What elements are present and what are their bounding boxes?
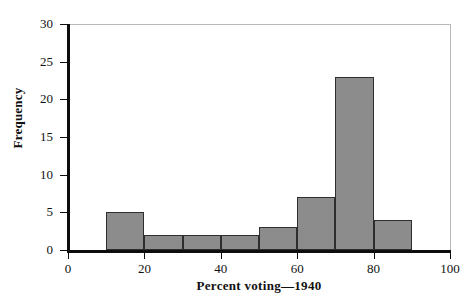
y-tick-label: 20 [23, 91, 53, 107]
y-tick-label: 10 [23, 167, 53, 183]
histogram-bar [221, 235, 259, 250]
x-tick-label: 80 [354, 261, 394, 277]
x-tick-mark [144, 252, 145, 259]
x-tick-mark [297, 252, 298, 259]
x-tick-label: 60 [277, 261, 317, 277]
y-tick-label: 15 [23, 129, 53, 145]
y-tick-label: 0 [23, 242, 53, 258]
x-tick-label: 100 [430, 261, 470, 277]
histogram-bar [106, 212, 144, 250]
x-tick-mark [374, 252, 375, 259]
y-tick-label: 5 [23, 204, 53, 220]
histogram-bar [183, 235, 221, 250]
y-tick-mark [60, 212, 67, 213]
y-tick-mark [60, 62, 67, 63]
y-tick-mark [60, 137, 67, 138]
x-tick-label: 0 [48, 261, 88, 277]
plot-frame-right [450, 24, 451, 250]
x-tick-label: 40 [201, 261, 241, 277]
y-tick-mark [60, 250, 67, 251]
x-tick-mark [450, 252, 451, 259]
histogram-bar [374, 220, 412, 250]
y-tick-label: 25 [23, 54, 53, 70]
histogram-bar [144, 235, 182, 250]
x-tick-label: 20 [124, 261, 164, 277]
x-tick-mark [221, 252, 222, 259]
histogram-bar [259, 227, 297, 250]
x-tick-mark [68, 252, 69, 259]
y-tick-label: 30 [23, 16, 53, 32]
y-tick-mark [60, 24, 67, 25]
histogram-figure: Frequency Percent voting—1940 0510152025… [0, 0, 474, 304]
histogram-bar [297, 197, 335, 250]
plot-frame-top [68, 24, 450, 25]
y-axis-line [67, 24, 70, 251]
x-axis-label: Percent voting—1940 [68, 278, 450, 294]
histogram-bar [335, 77, 373, 250]
y-axis-label: Frequency [10, 58, 26, 178]
y-tick-mark [60, 175, 67, 176]
y-tick-mark [60, 99, 67, 100]
x-axis-line [67, 250, 451, 253]
